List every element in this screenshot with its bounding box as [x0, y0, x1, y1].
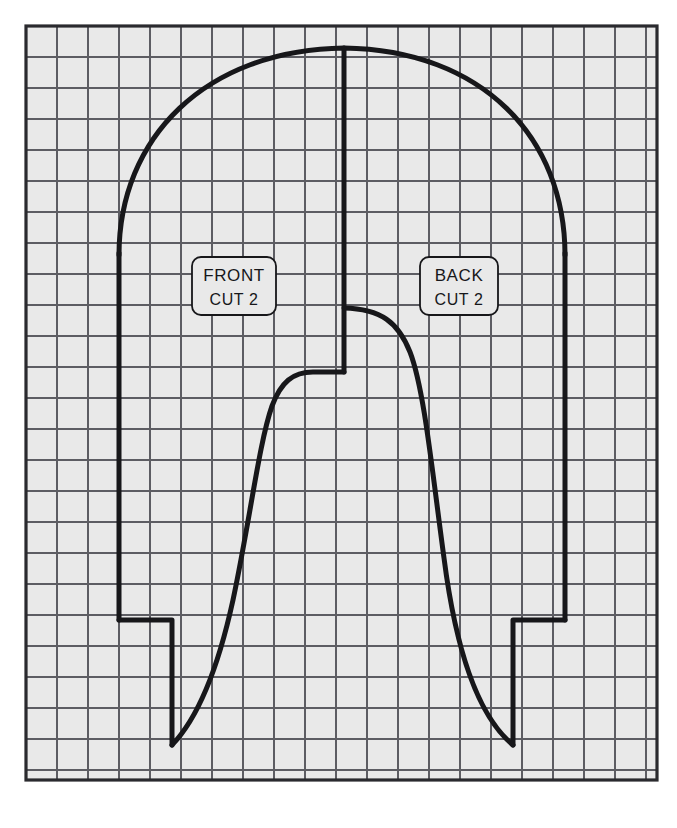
piece-label-front: FRONTCUT 2: [192, 257, 276, 315]
pattern-sheet: FRONTCUT 2BACKCUT 2: [0, 0, 677, 828]
label-piece-name: FRONT: [203, 266, 265, 285]
label-cut-count: CUT 2: [435, 291, 484, 308]
pattern-drawing: FRONTCUT 2BACKCUT 2: [0, 0, 677, 828]
piece-label-back: BACKCUT 2: [420, 257, 498, 315]
label-piece-name: BACK: [435, 266, 484, 285]
label-cut-count: CUT 2: [210, 291, 259, 308]
